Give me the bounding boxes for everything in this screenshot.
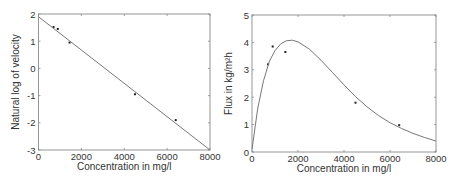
y-tick-label: 3 [244,64,249,75]
fit-line [39,17,211,150]
y-tick-label: 4 [244,37,249,48]
x-axis-label: Concentration in mg/l [297,163,392,174]
x-axis-label: Concentration in mg/l [77,161,172,172]
y-axis-label: Natural log of velocity [10,34,21,130]
y-tick-label: -1 [27,90,35,101]
data-point [134,93,136,95]
data-point [57,28,59,30]
data-point [272,46,274,48]
data-point [355,102,357,104]
y-tick-label: 1 [244,119,249,130]
y-tick-label: -2 [27,117,35,128]
right-chart: 02000400060008000012345Concentration in … [223,10,447,175]
x-tick-label: 0 [249,153,254,164]
y-tick-label: 5 [244,10,249,21]
data-point [175,119,177,121]
y-tick-label: 0 [244,147,249,158]
y-axis-label: Flux in kg/m²h [223,52,234,115]
data-point [284,51,286,53]
x-tick-label: 8000 [425,153,446,164]
x-tick-label: 8000 [199,151,220,162]
data-point [398,124,400,126]
y-tick-label: 1 [30,36,35,47]
y-tick-label: -3 [27,145,35,156]
fit-line [252,40,436,149]
left-chart: 02000400060008000-3-2-1012Concentration … [10,9,221,173]
chart-canvas: 02000400060008000-3-2-1012Concentration … [0,0,452,181]
x-tick-label: 0 [36,151,41,162]
y-tick-label: 2 [30,9,35,20]
y-tick-label: 2 [244,92,249,103]
y-tick-label: 0 [30,63,35,74]
